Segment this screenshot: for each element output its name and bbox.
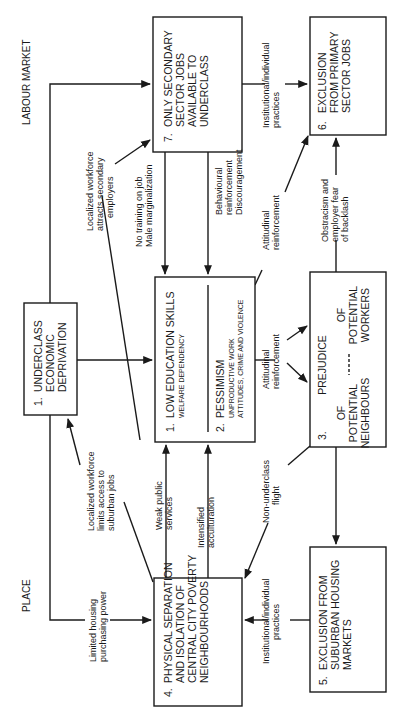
box-6-line-1: EXCLUSION: [316, 52, 328, 113]
svg-text:practices: practices: [271, 603, 281, 640]
label-intensified: Intensified acculturation: [196, 497, 216, 548]
box-3-right-line-1: OF: [335, 308, 347, 323]
box-5-line-1: EXCLUSION FROM: [317, 575, 329, 670]
section-labour-market: LABOUR MARKET: [21, 39, 32, 125]
box-1-line-1: UNDERCLASS: [32, 320, 44, 392]
svg-text:services: services: [164, 496, 174, 530]
box-2-part2-sub1: UNPRODUCTIVE WORK: [228, 338, 235, 418]
svg-text:Limited housing: Limited housing: [88, 599, 98, 662]
label-obstracism: Obstracism and employer fear of backlash: [320, 179, 350, 242]
box-5-number: 5.: [317, 676, 329, 685]
arrow-b2-to-b6: [285, 136, 308, 192]
box-3-left-line-3: NEIGHBOURS: [359, 378, 371, 449]
svg-text:Non-underclass: Non-underclass: [261, 459, 271, 523]
box-6-line-2: FROM PRIMARY: [328, 32, 340, 113]
label-attitudinal-top: Attitudinal reinforcement: [261, 194, 281, 250]
label-attitudinal-mid: Attitudinal reinforcement: [261, 333, 281, 389]
box-2-part2-title: PESSIMISM: [214, 360, 226, 418]
line-b1-to-b4-a: [50, 415, 85, 620]
svg-text:employer fear: employer fear: [330, 187, 340, 242]
box-3-left-line-1: OF: [335, 406, 347, 421]
box-7-line-3: AVAILABLE TO: [186, 55, 198, 127]
box-1-line-3: DEPRIVATION: [56, 322, 68, 392]
arrow-attitudinal-b3-lower: [287, 363, 307, 382]
svg-text:suburban jobs: suburban jobs: [106, 474, 116, 531]
svg-text:flight: flight: [271, 485, 281, 505]
svg-text:reinforcement: reinforcement: [224, 159, 234, 215]
svg-text:Behavioural: Behavioural: [214, 167, 224, 215]
svg-text:Discouragement: Discouragement: [234, 149, 244, 215]
svg-text:of backlash: of backlash: [340, 196, 350, 242]
box-3-number: 3.: [316, 431, 328, 440]
box-7-number: 7.: [162, 133, 174, 142]
box-2-part1-number: 1.: [164, 423, 176, 432]
svg-text:practices: practices: [271, 91, 281, 128]
svg-text:Localized workforce: Localized workforce: [85, 151, 95, 231]
box-4-number: 4.: [162, 688, 174, 697]
label-localized-attracts: Localized workforce attracts secondary e…: [85, 151, 115, 231]
box-2-part2-number: 2.: [214, 423, 226, 432]
box-3-title: PREJUDICE: [316, 335, 328, 395]
section-place: PLACE: [21, 579, 32, 612]
arrow-nonunderclass-b4: [245, 523, 268, 578]
svg-text:Institutional/individual: Institutional/individual: [261, 578, 271, 664]
arrow-attitudinal-b3-upper: [287, 326, 307, 340]
label-no-training: No training on job Male marginalization: [134, 164, 154, 247]
arrow-attracts-b7: [115, 140, 150, 164]
svg-text:Institutional/individual: Institutional/individual: [261, 42, 271, 128]
svg-text:limits access to: limits access to: [96, 470, 106, 531]
box-4-line-4: NEIGHBOURHOODS: [198, 581, 210, 683]
box-6-line-3: SECTOR JOBS: [340, 39, 352, 113]
box-7-line-1: ONLY SECONDARY: [162, 30, 174, 127]
box-6-number: 6.: [316, 121, 328, 130]
box-4-line-2: AND ISOLATION OF: [174, 585, 186, 683]
underclass-causation-diagram: LABOUR MARKET PLACE 7. ONLY SECONDARY SE…: [0, 0, 396, 708]
svg-text:reinforcement: reinforcement: [271, 194, 281, 250]
box-4-line-1: PHYSICAL SEPARATION: [162, 562, 174, 683]
label-localized-limits: Localized workforce limits access to sub…: [86, 451, 116, 531]
line-nonunderclass-a: [288, 446, 310, 465]
box-1-number: 1.: [32, 397, 44, 406]
svg-text:Intensified: Intensified: [196, 507, 206, 548]
label-weak-public: Weak public services: [154, 481, 174, 530]
svg-text:reinforcement: reinforcement: [271, 333, 281, 389]
box-2-part1-title: LOW EDUCATION SKILLS: [164, 292, 176, 418]
svg-text:Weak public: Weak public: [154, 481, 164, 530]
svg-text:employers: employers: [105, 176, 115, 218]
box-2-part2-sub2: ATTITUDES, CRIME AND VIOLENCE: [237, 299, 244, 418]
svg-text:No training on job: No training on job: [134, 176, 144, 247]
svg-text:Attitudinal: Attitudinal: [261, 349, 271, 389]
line-b2-to-b6-a: [255, 270, 262, 285]
svg-text:Male marginalization: Male marginalization: [144, 164, 154, 247]
box-1-line-2: ECONOMIC: [44, 334, 56, 392]
label-institutional-bottom: Institutional/individual practices: [261, 578, 281, 664]
box-2-part1-sub: WELFARE DEPENDENCY: [178, 334, 185, 418]
line-limits-a: [124, 502, 153, 582]
svg-text:Obstracism and: Obstracism and: [320, 179, 330, 242]
box-7-line-4: UNDERCLASS: [198, 55, 210, 127]
box-5-line-3: MARKETS: [341, 619, 353, 670]
arrow-limits-b1: [68, 419, 80, 465]
label-non-underclass: Non-underclass flight: [261, 459, 281, 523]
box-3-right-line-3: WORKERS: [359, 288, 371, 342]
svg-text:Attitudinal: Attitudinal: [261, 210, 271, 250]
label-behavioural: Behavioural reinforcement Discouragement: [214, 149, 244, 215]
box-3-right-line-2: POTENTIAL: [347, 286, 359, 345]
svg-text:attracts secondary: attracts secondary: [95, 157, 105, 231]
svg-text:acculturation: acculturation: [206, 497, 216, 548]
box-3-left-line-2: POTENTIAL: [347, 384, 359, 443]
label-limited-housing: Limited housing purchasing power: [88, 591, 108, 662]
svg-text:purchasing power: purchasing power: [98, 591, 108, 662]
label-institutional-top: Institutional/individual practices: [261, 42, 281, 128]
svg-text:Localized workforce: Localized workforce: [86, 451, 96, 531]
box-4-line-3: CENTRAL CITY POVERTY: [186, 555, 198, 683]
box-5-line-2: SUBURBAN HOUSING: [329, 560, 341, 670]
box-7-line-2: SECTOR JOBS: [174, 53, 186, 127]
